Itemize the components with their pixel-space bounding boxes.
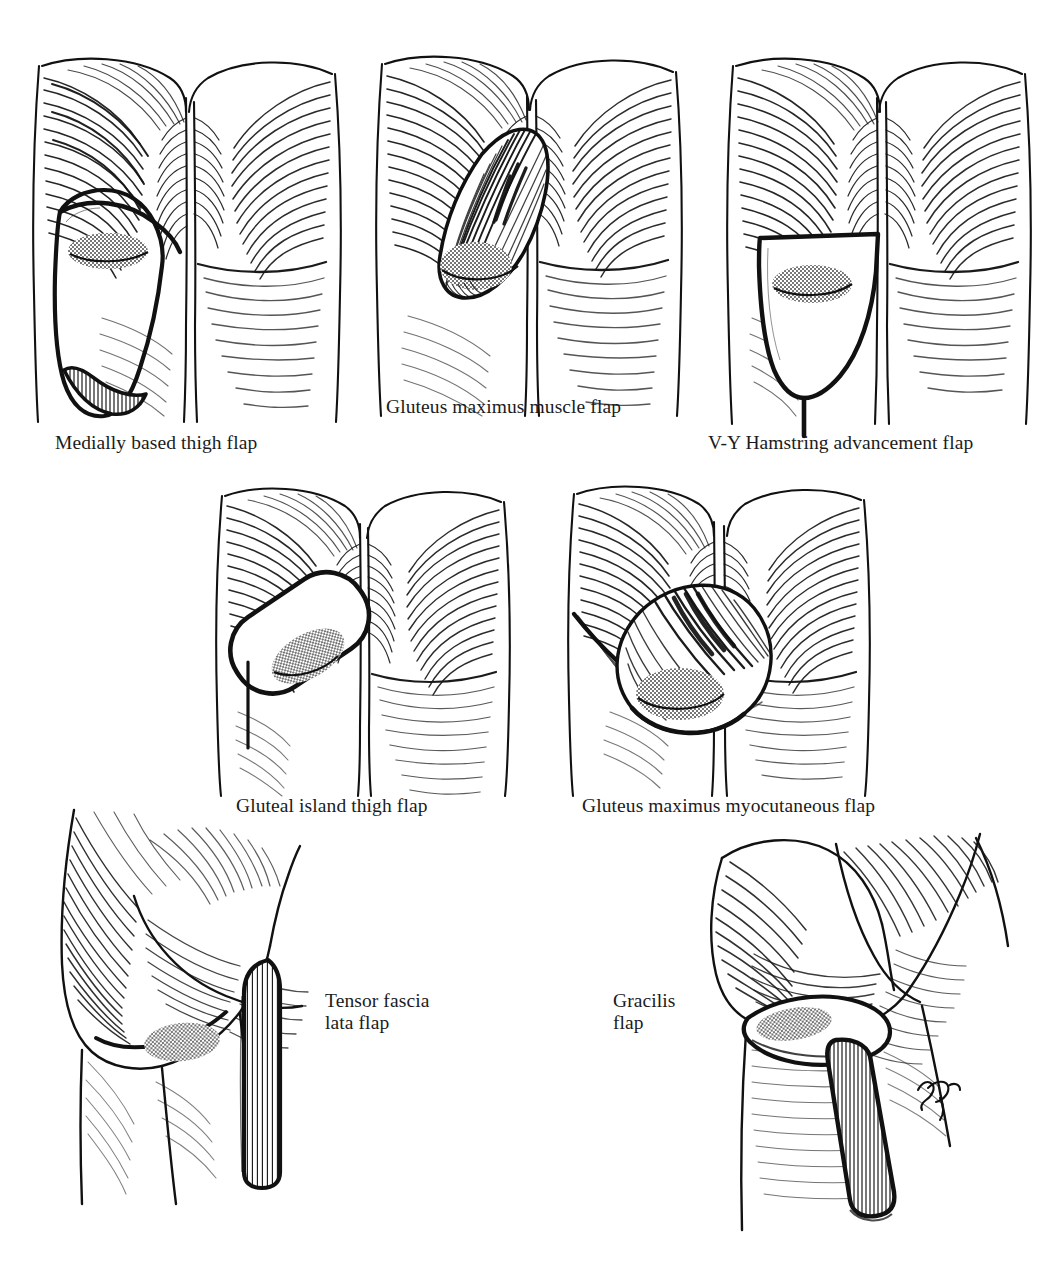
caption-tensor-fascia-lata-flap: Tensor fascia lata flap (325, 990, 429, 1034)
panel-gluteal-island-thigh-flap (190, 466, 530, 796)
panel-gluteus-maximus-myocutaneous-flap (548, 466, 893, 796)
flap-gracilis-strip (827, 1040, 894, 1221)
caption-medially-based-thigh-flap: Medially based thigh flap (55, 432, 257, 454)
figure-sheet: Medially based thigh flap (0, 0, 1051, 1276)
panel-tensor-fascia-lata-flap (30, 800, 360, 1220)
ulcer-stipple-oval (68, 233, 148, 269)
flap-gluteus-maximus-muscle (439, 128, 548, 298)
ulcer-stipple-oval (636, 668, 724, 720)
flap-tensor-fascia-lata-strip (241, 960, 281, 1188)
ulcer-stipple-oval (772, 265, 852, 303)
panel-gracilis-flap (660, 800, 1020, 1250)
panel-gluteus-maximus-muscle-flap (358, 26, 698, 416)
caption-v-y-hamstring-advancement-flap: V-Y Hamstring advancement flap (708, 432, 973, 454)
panel-v-y-hamstring-advancement-flap (700, 26, 1045, 426)
caption-gluteus-maximus-muscle-flap: Gluteus maximus muscle flap (386, 396, 621, 418)
flap-gluteus-maximus-myocutaneous (617, 578, 772, 733)
flap-outline-v-y-hamstring (759, 234, 878, 436)
panel-medially-based-thigh-flap (8, 26, 358, 426)
caption-gracilis-flap: Gracilis flap (613, 990, 676, 1034)
